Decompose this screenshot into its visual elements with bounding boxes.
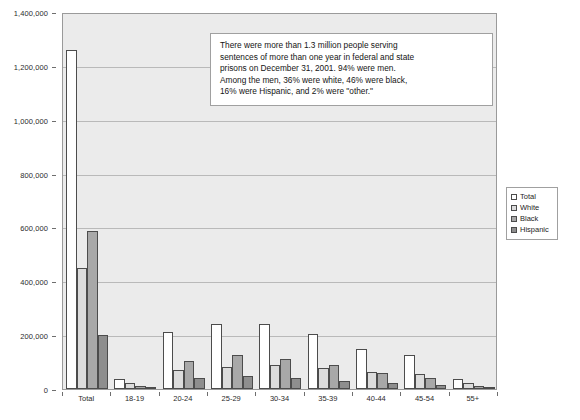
bar-black-55plus <box>474 386 485 390</box>
bar-hispanic-20-24 <box>194 378 205 389</box>
bar-black-20-24 <box>184 361 195 389</box>
bar-total-20-24 <box>163 332 174 389</box>
bar-hispanic-30-34 <box>291 378 302 389</box>
y-axis-tick-mark <box>52 175 56 176</box>
y-axis-tick-label: 0 <box>44 386 48 395</box>
legend-item-total[interactable]: Total <box>511 191 553 202</box>
bar-total-35-39 <box>308 334 319 389</box>
x-axis-tick-label: 55+ <box>449 394 497 403</box>
y-axis-tick-mark <box>52 282 56 283</box>
bar-hispanic-35-39 <box>339 381 350 389</box>
x-axis-tick-mark <box>449 392 450 396</box>
x-axis-tick-mark <box>110 392 111 396</box>
bar-white-35-39 <box>318 368 329 389</box>
legend-label: Hispanic <box>520 225 549 234</box>
bar-chart: 1,400,0001,200,0001,000,000800,000600,00… <box>0 0 580 420</box>
bar-group <box>63 14 111 389</box>
legend-swatch-icon <box>511 194 517 200</box>
chart-legend: TotalWhiteBlackHispanic <box>506 187 558 240</box>
legend-item-black[interactable]: Black <box>511 213 553 224</box>
y-axis-tick-label: 400,000 <box>20 278 48 287</box>
y-axis: 1,400,0001,200,0001,000,000800,000600,00… <box>0 13 56 390</box>
bar-white-Total <box>77 268 88 389</box>
x-axis: Total18-1920-2425-2930-3435-3940-4445-54… <box>62 392 497 410</box>
legend-label: Black <box>520 214 538 223</box>
bar-black-40-44 <box>377 373 388 389</box>
annotation-line-5: 16% were Hispanic, and 2% were "other." <box>220 86 484 98</box>
legend-swatch-icon <box>511 205 517 211</box>
y-axis-tick-mark <box>52 336 56 337</box>
annotation-line-3: prisons on December 31, 2001. 94% were m… <box>220 63 484 75</box>
bar-black-25-29 <box>232 355 243 389</box>
x-axis-tick-mark <box>207 392 208 396</box>
annotation-line-2: sentences of more than one year in feder… <box>220 52 484 64</box>
annotation-line-1: There were more than 1.3 million people … <box>220 40 484 52</box>
bar-total-55plus <box>453 379 464 389</box>
x-axis-tick-mark <box>304 392 305 396</box>
bar-total-25-29 <box>211 324 222 389</box>
bar-black-Total <box>87 231 98 389</box>
bar-white-20-24 <box>173 370 184 389</box>
bar-white-30-34 <box>270 365 281 389</box>
bar-total-45-54 <box>404 355 415 389</box>
bar-black-30-34 <box>280 359 291 389</box>
x-axis-tick-label: 18-19 <box>110 394 158 403</box>
x-axis-tick-mark <box>159 392 160 396</box>
bar-total-18-19 <box>114 379 125 389</box>
bar-hispanic-40-44 <box>388 383 399 389</box>
annotation-line-4: Among the men, 36% were white, 46% were … <box>220 75 484 87</box>
bar-group <box>111 14 159 389</box>
bar-hispanic-Total <box>98 335 109 389</box>
y-axis-tick-label: 800,000 <box>20 170 48 179</box>
bar-hispanic-55plus <box>484 387 495 389</box>
legend-label: White <box>520 203 539 212</box>
legend-item-white[interactable]: White <box>511 202 553 213</box>
bar-group <box>160 14 208 389</box>
y-axis-tick-label: 200,000 <box>20 332 48 341</box>
x-axis-tick-label: 35-39 <box>304 394 352 403</box>
y-axis-tick-label: 1,400,000 <box>14 9 48 18</box>
bar-black-35-39 <box>329 365 340 389</box>
bar-white-45-54 <box>415 374 426 389</box>
x-axis-tick-mark <box>400 392 401 396</box>
x-axis-tick-label: 30-34 <box>255 394 303 403</box>
legend-label: Total <box>520 192 536 201</box>
y-axis-tick-mark <box>52 228 56 229</box>
x-axis-tick-mark <box>497 392 498 396</box>
bar-white-18-19 <box>125 383 136 389</box>
y-axis-tick-mark <box>52 67 56 68</box>
bar-white-40-44 <box>367 372 378 389</box>
x-axis-tick-mark <box>255 392 256 396</box>
x-axis-tick-label: 20-24 <box>159 394 207 403</box>
legend-swatch-icon <box>511 227 517 233</box>
bar-black-45-54 <box>425 378 436 389</box>
legend-swatch-icon <box>511 216 517 222</box>
annotation-textbox: There were more than 1.3 million people … <box>210 33 493 106</box>
x-axis-tick-mark <box>352 392 353 396</box>
x-axis-tick-label: Total <box>62 394 110 403</box>
y-axis-tick-label: 1,000,000 <box>14 116 48 125</box>
bar-white-25-29 <box>222 367 233 389</box>
y-axis-tick-label: 600,000 <box>20 224 48 233</box>
x-axis-tick-label: 45-54 <box>400 394 448 403</box>
legend-item-hispanic[interactable]: Hispanic <box>511 224 553 235</box>
bar-total-Total <box>66 50 77 389</box>
x-axis-tick-label: 40-44 <box>352 394 400 403</box>
y-axis-tick-mark <box>52 390 56 391</box>
bar-hispanic-45-54 <box>436 385 447 389</box>
x-axis-tick-label: 25-29 <box>207 394 255 403</box>
y-axis-tick-label: 1,200,000 <box>14 62 48 71</box>
bar-total-40-44 <box>356 349 367 389</box>
y-axis-tick-mark <box>52 121 56 122</box>
bar-total-30-34 <box>259 324 270 389</box>
x-axis-tick-mark <box>62 392 63 396</box>
bar-black-18-19 <box>135 386 146 389</box>
bar-hispanic-18-19 <box>146 387 157 389</box>
bar-white-55plus <box>463 383 474 389</box>
y-axis-tick-mark <box>52 13 56 14</box>
bar-hispanic-25-29 <box>243 376 254 389</box>
